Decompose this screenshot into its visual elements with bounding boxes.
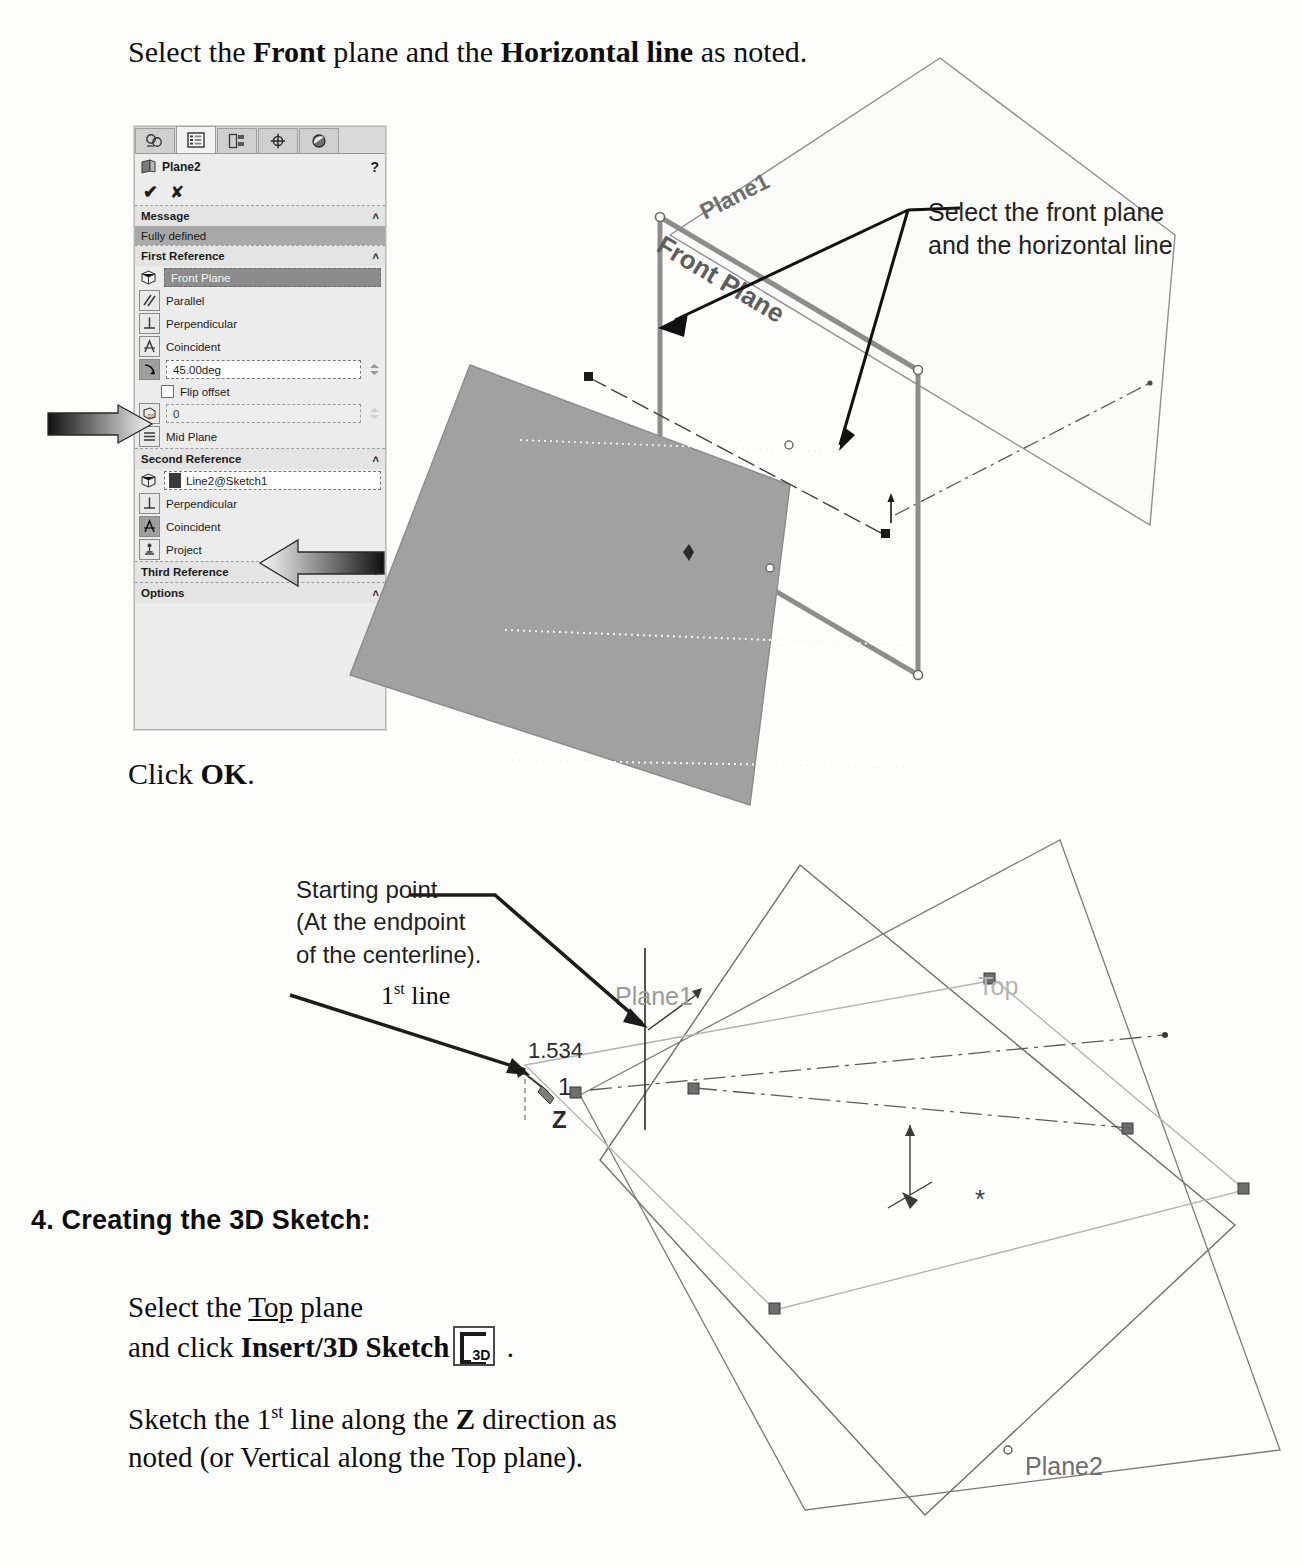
vertex-handle[interactable] [914, 671, 923, 680]
origin-axis-arrow [905, 1125, 915, 1136]
constraint-row-coincident[interactable]: Coincident [135, 335, 385, 358]
constraint-row-perpendicular-2[interactable]: Perpendicular [135, 492, 385, 515]
callout-first-line-suffix: line [405, 981, 451, 1010]
first-reference-selection-row[interactable]: Front Plane [135, 266, 385, 289]
mid-plane-row[interactable]: Mid Plane [135, 425, 385, 448]
spinner-icon [368, 406, 381, 421]
plane2-vertex[interactable] [1004, 1446, 1012, 1454]
bi2-l1-sup: st [271, 1402, 283, 1422]
axis-label-z: Z [552, 1106, 567, 1133]
section-label-third-reference: Third Reference [141, 566, 229, 578]
sidebar-item-property-manager[interactable] [176, 126, 216, 153]
constraint-label-coincident-2: Coincident [166, 521, 220, 533]
parallel-icon[interactable] [139, 290, 160, 311]
plane-icon [141, 159, 156, 174]
selection-handle[interactable] [881, 529, 890, 538]
sidebar-item-dimxpert-manager[interactable] [258, 128, 298, 153]
perpendicular-icon[interactable] [139, 313, 160, 334]
constraint-label-perpendicular-2: Perpendicular [166, 498, 237, 510]
midpoint-handle[interactable] [785, 441, 793, 449]
constraint-row-parallel[interactable]: Parallel [135, 289, 385, 312]
constraint-row-coincident-2[interactable]: Coincident [135, 515, 385, 538]
pencil-cursor-icon [538, 1086, 554, 1104]
viewport-top-3d-model[interactable]: Plane1 Front Plane [440, 45, 1180, 745]
display-manager-icon [310, 133, 328, 149]
coincident-icon[interactable] [139, 516, 160, 537]
section-header-first-reference[interactable]: First Reference ˄ [135, 246, 385, 266]
angle-row[interactable]: 45.00deg [135, 358, 385, 381]
callout-starting-point: Starting point (At the endpoint of the c… [296, 874, 481, 971]
constraint-row-perpendicular[interactable]: Perpendicular [135, 312, 385, 335]
crosshair-icon [269, 133, 287, 149]
chevron-up-icon[interactable]: ˄ [373, 453, 379, 465]
reference-entity-icon [139, 268, 158, 287]
vertex-handle[interactable] [656, 213, 665, 222]
bi2-l1-bold-z: Z [456, 1403, 475, 1435]
plane-handle[interactable] [769, 1303, 780, 1314]
sidebar-item-configuration-manager[interactable] [217, 128, 257, 153]
bi1-l1-suffix: plane [293, 1291, 363, 1323]
callout-line-2: and the horizontal line [928, 229, 1173, 262]
coincident-icon[interactable] [139, 336, 160, 357]
pointer-arrow-second-reference [258, 540, 388, 592]
perpendicular-icon[interactable] [139, 493, 160, 514]
top-instruction-prefix: Select the [128, 35, 253, 68]
distance-spinner[interactable] [367, 405, 381, 422]
constraint-label-perpendicular: Perpendicular [166, 318, 237, 330]
plane-handle[interactable] [1122, 1123, 1133, 1134]
section-label-second-reference: Second Reference [141, 453, 241, 465]
sidebar-item-display-manager[interactable] [299, 128, 339, 153]
bi2-l1-prefix: Sketch the 1 [128, 1403, 271, 1435]
plane-handle[interactable] [1238, 1183, 1249, 1194]
bi1-l2-bold: Insert/3D Sketch [241, 1331, 450, 1363]
pointer-arrow-angle [48, 405, 158, 451]
plane-handle[interactable] [570, 1087, 581, 1098]
bottom-instruction-1: Select the Top plane and click Insert/3D… [128, 1288, 514, 1367]
angle-input[interactable]: 45.00deg [166, 360, 361, 379]
plane2-shaded-surface[interactable] [350, 365, 790, 805]
callout-first-line: 1st line [381, 981, 450, 1011]
callout-first-line-prefix: 1 [381, 981, 394, 1010]
page-section-heading: 4. Creating the 3D Sketch: [31, 1205, 371, 1236]
insert-3d-sketch-icon[interactable]: 3D [453, 1326, 495, 1366]
direction-arrow-head [888, 493, 895, 502]
top-plane-outline[interactable] [525, 980, 1245, 1310]
axis-label-1: 1 [558, 1073, 571, 1100]
property-manager-tabstrip[interactable] [135, 127, 385, 154]
point-handle[interactable] [766, 564, 774, 572]
flip-offset-row[interactable]: Flip offset [135, 381, 385, 402]
bi1-l2-suffix: . [499, 1331, 514, 1363]
section-header-message[interactable]: Message ˄ [135, 206, 385, 226]
click-ok-instruction: Click OK. [128, 755, 255, 793]
angle-icon[interactable] [139, 359, 160, 380]
bottom-instruction-2-line-2: noted (or Vertical along the Top plane). [128, 1438, 617, 1476]
distance-row[interactable]: D1 0 [135, 402, 385, 425]
project-icon[interactable] [139, 539, 160, 560]
chevron-up-icon[interactable]: ˄ [373, 210, 379, 222]
centerline-endpoint [1162, 1032, 1168, 1038]
second-reference-field[interactable]: Line2@Sketch1 [164, 471, 381, 490]
dimension-value: 1.534 [528, 1038, 583, 1063]
panel-action-row[interactable]: ✔ ✘ [135, 179, 385, 205]
angle-spinner[interactable] [367, 361, 381, 378]
distance-input[interactable]: 0 [166, 404, 361, 423]
status-badge-fully-defined: Fully defined [135, 226, 385, 245]
accept-button[interactable]: ✔ [143, 183, 158, 201]
selection-handle[interactable] [584, 372, 593, 381]
help-button[interactable]: ? [370, 159, 379, 175]
section-header-second-reference[interactable]: Second Reference ˄ [135, 449, 385, 469]
flip-offset-checkbox[interactable] [161, 385, 174, 398]
property-manager-panel[interactable]: Plane2 ? ✔ ✘ Message ˄ Fully defined Fir… [134, 126, 386, 730]
bottom-instruction-1-line-1: Select the Top plane [128, 1288, 514, 1326]
sidebar-item-feature-manager-design-tree[interactable] [135, 128, 175, 153]
cancel-button[interactable]: ✘ [170, 184, 184, 201]
click-ok-bold: OK [201, 757, 248, 790]
callout-starting-point-line-1: Starting point [296, 874, 481, 906]
callout-first-line-sup: st [394, 980, 405, 997]
vertex-handle[interactable] [914, 366, 923, 375]
click-ok-suffix: . [247, 757, 255, 790]
section-label-options: Options [141, 587, 184, 599]
chevron-up-icon[interactable]: ˄ [373, 250, 379, 262]
second-reference-selection-row[interactable]: Line2@Sketch1 [135, 469, 385, 492]
first-reference-field[interactable]: Front Plane [164, 268, 381, 287]
